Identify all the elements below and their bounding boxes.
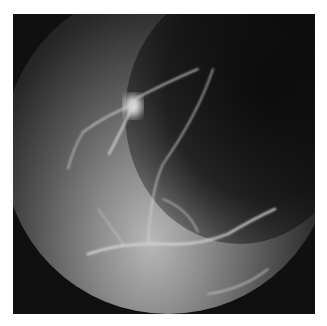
- retinal-vessels: [13, 14, 315, 314]
- angiography-image: [13, 14, 315, 314]
